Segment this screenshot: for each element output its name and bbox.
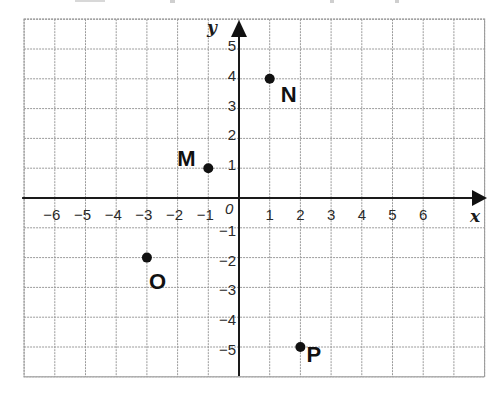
y-tick-label: 2: [228, 126, 236, 143]
x-tick-label: −3: [135, 206, 152, 223]
point-label: P: [306, 342, 321, 367]
point-m: M: [177, 146, 213, 173]
x-tick-label: 3: [327, 206, 335, 223]
coordinate-plane: x y 0 −6−5−4−3−2−112345654321−1−2−3−4−5 …: [0, 0, 499, 393]
x-tick-label: 6: [419, 206, 427, 223]
x-tick-label: −2: [166, 206, 183, 223]
y-axis-arrow-icon: [231, 20, 247, 37]
y-tick-label: 3: [228, 97, 236, 114]
axes: x y 0: [22, 17, 487, 376]
y-tick-label: −5: [219, 341, 236, 358]
x-tick-label: −6: [43, 206, 60, 223]
x-tick-label: −5: [74, 206, 91, 223]
point-label: M: [177, 146, 195, 171]
point-dot: [295, 342, 305, 352]
y-tick-label: 1: [228, 156, 236, 173]
point-dot: [142, 253, 152, 263]
point-label: N: [281, 82, 297, 107]
x-tick-label: 2: [296, 206, 304, 223]
x-tick-label: 5: [388, 206, 396, 223]
x-tick-label: −1: [197, 206, 214, 223]
y-tick-label: −3: [219, 281, 236, 298]
point-label: O: [149, 269, 166, 294]
point-dot: [265, 74, 275, 84]
x-axis-label: x: [469, 206, 481, 226]
cropped-text-fragment: [75, 0, 399, 3]
y-axis-label: y: [206, 17, 218, 37]
y-tick-label: −2: [219, 252, 236, 269]
point-dot: [203, 163, 213, 173]
x-tick-label: −4: [105, 206, 122, 223]
y-tick-label: 5: [228, 37, 236, 54]
point-p: P: [295, 342, 321, 367]
y-tick-label: −1: [219, 222, 236, 239]
y-tick-label: 4: [228, 67, 236, 84]
x-tick-label: 1: [266, 206, 274, 223]
y-tick-label: −4: [219, 311, 236, 328]
origin-label: 0: [225, 200, 234, 217]
x-tick-label: 4: [358, 206, 366, 223]
